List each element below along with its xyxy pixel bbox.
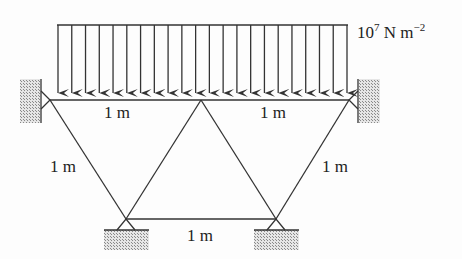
distributed-load xyxy=(57,25,348,93)
bottom-right-support xyxy=(254,219,299,250)
label-bottom-length: 1 m xyxy=(187,227,213,244)
label-diag-right-length: 1 m xyxy=(322,158,348,175)
left-pin-icon xyxy=(41,91,50,109)
label-top-left-length: 1 m xyxy=(104,104,130,121)
load-arrows xyxy=(58,25,347,93)
bottom-left-support xyxy=(104,219,149,250)
label-top-right-length: 1 m xyxy=(260,104,286,121)
right-wall-hatch xyxy=(359,79,380,123)
bottom-right-pin-icon xyxy=(267,219,285,230)
member-diag-left-inner xyxy=(126,100,201,219)
left-wall-support xyxy=(20,79,50,123)
label-diag-left-length: 1 m xyxy=(50,158,76,175)
truss-members xyxy=(50,100,349,219)
bottom-left-pin-icon xyxy=(117,219,135,230)
bottom-right-hatch xyxy=(254,230,299,250)
left-wall-hatch xyxy=(20,79,40,123)
load-magnitude-label: 107 N m−2 xyxy=(357,24,425,41)
bottom-left-hatch xyxy=(104,230,149,250)
right-wall-support xyxy=(349,79,380,123)
truss-diagram: 107 N m−2 1 m 1 m 1 m 1 m 1 m xyxy=(0,0,462,259)
right-pin-icon xyxy=(349,91,358,109)
